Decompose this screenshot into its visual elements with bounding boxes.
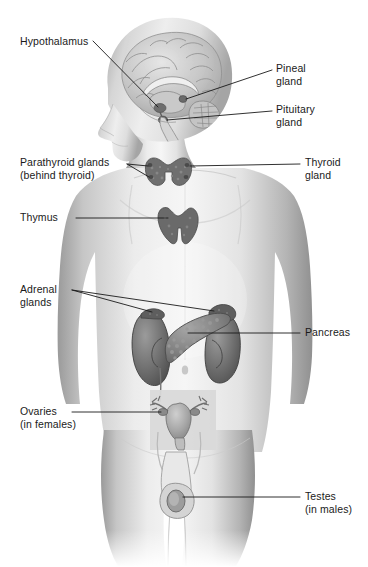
label-thymus-line1: Thymus [20,211,58,223]
label-hypothalamus-line1: Hypothalamus [20,35,88,47]
label-ovaries: Ovaries (in females) [20,405,76,430]
label-testes-line2: (in males) [305,503,352,516]
leader-adrenal-b [72,290,152,312]
label-parathyroid-glands: Parathyroid glands (behind thyroid) [20,156,109,181]
label-pituitary-gland-line2: gland [276,116,315,129]
label-thyroid-gland-line2: gland [305,169,341,182]
leader-adrenal-a [72,290,214,311]
label-pineal-gland-line1: Pineal [276,62,306,74]
label-ovaries-line1: Ovaries [20,405,57,417]
label-adrenal-glands-line2: glands [20,296,57,309]
label-ovaries-line2: (in females) [20,418,76,431]
label-hypothalamus: Hypothalamus [20,35,88,48]
label-thyroid-gland-line1: Thyroid [305,156,341,168]
label-adrenal-glands: Adrenal glands [20,283,57,308]
label-thymus: Thymus [20,211,58,224]
label-thyroid-gland: Thyroid gland [305,156,341,181]
label-parathyroid-glands-line1: Parathyroid glands [20,156,109,168]
leader-thyroid [190,164,300,166]
label-pineal-gland-line2: gland [276,75,306,88]
label-pineal-gland: Pineal gland [276,62,306,87]
leader-pituitary [167,111,272,120]
label-testes: Testes (in males) [305,490,352,515]
leader-hypothalamus [93,41,158,107]
label-testes-line1: Testes [305,490,336,502]
label-parathyroid-glands-line2: (behind thyroid) [20,169,109,182]
label-adrenal-glands-line1: Adrenal [20,283,57,295]
endocrine-system-diagram: Hypothalamus Pineal gland Pituitary glan… [0,0,368,567]
label-pituitary-gland: Pituitary gland [276,103,315,128]
label-pancreas-line1: Pancreas [305,326,350,338]
leader-pineal [186,70,272,99]
label-pituitary-gland-line1: Pituitary [276,103,315,115]
label-pancreas: Pancreas [305,326,350,339]
